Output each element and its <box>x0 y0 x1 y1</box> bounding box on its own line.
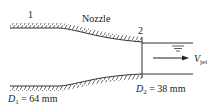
outlet-diameter-subscript: 2 <box>143 88 147 96</box>
top-wall-hatching <box>10 23 142 42</box>
inlet-diameter-value: = 64 mm <box>21 93 57 104</box>
jet-velocity-arrow <box>153 56 189 61</box>
section-2-label: 2 <box>138 26 143 36</box>
jet-velocity-subscript: jet <box>200 58 207 66</box>
outlet-diameter-value: = 38 mm <box>149 83 185 94</box>
jet-velocity-label: Vjet <box>194 54 207 66</box>
section-1-label: 1 <box>28 10 33 20</box>
inlet-diameter-subscript: 1 <box>15 98 19 106</box>
free-surface-icon <box>172 46 184 51</box>
inlet-diameter-label: D1 = 64 mm <box>8 94 57 106</box>
outlet-diameter-label: D2 = 38 mm <box>136 84 185 96</box>
bottom-wall-hatching <box>10 74 142 91</box>
nozzle-title: Nozzle <box>82 14 110 24</box>
